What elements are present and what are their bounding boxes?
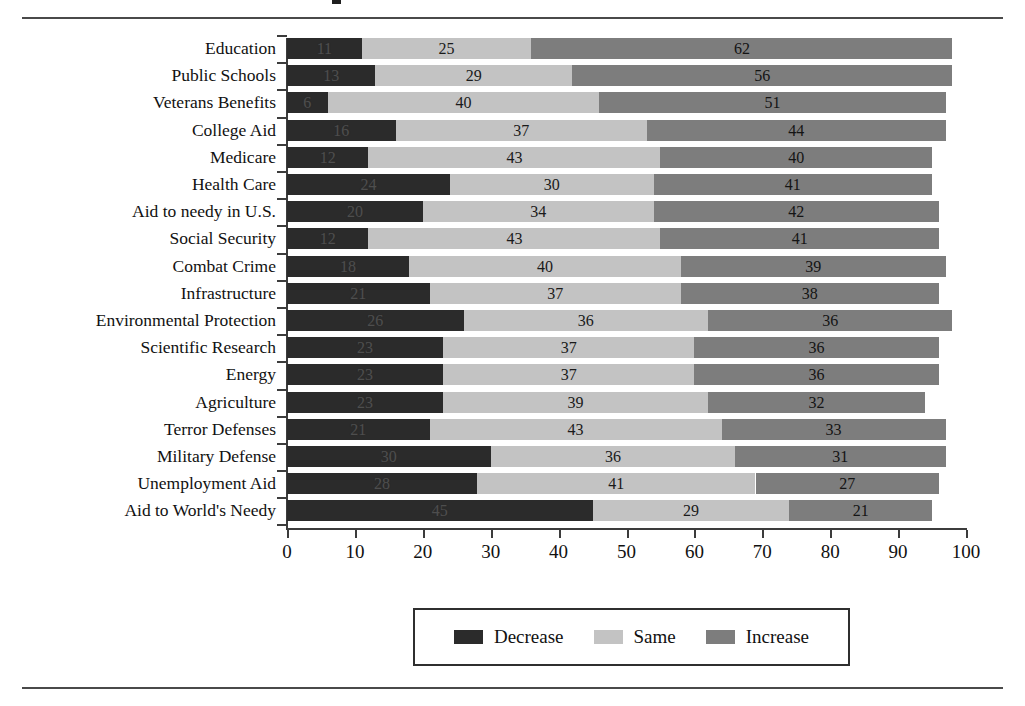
bar-segment-increase: 41 — [654, 174, 932, 195]
legend-item-increase[interactable]: Increase — [706, 626, 809, 648]
category-tick — [277, 171, 287, 173]
bar-value-label: 40 — [788, 149, 804, 166]
table-row: 213738 — [0, 283, 1025, 304]
bar-segment-same: 43 — [368, 147, 660, 168]
value-tick-label: 10 — [325, 541, 385, 563]
value-tick — [559, 530, 561, 538]
bar-value-label: 36 — [809, 339, 825, 356]
bar-segment-decrease: 45 — [287, 500, 593, 521]
bar-value-label: 23 — [357, 366, 373, 383]
category-label: Aid to needy in U.S. — [132, 201, 276, 222]
category-tick — [277, 225, 287, 227]
bar-segment-same: 36 — [491, 446, 735, 467]
value-tick — [762, 530, 764, 538]
legend-swatch-icon — [594, 630, 623, 644]
value-tick — [627, 530, 629, 538]
bar-value-label: 41 — [785, 176, 801, 193]
bar-segment-same: 29 — [375, 65, 572, 86]
value-tick — [423, 530, 425, 538]
bar-value-label: 33 — [826, 421, 842, 438]
table-row: 233932 — [0, 392, 1025, 413]
stacked-bar-chart: 1125621329566405116374412434024304120344… — [0, 0, 1025, 706]
bar-value-label: 37 — [513, 122, 529, 139]
legend-swatch-icon — [706, 630, 735, 644]
bar-segment-increase: 32 — [708, 392, 925, 413]
bar-value-label: 37 — [547, 285, 563, 302]
category-label: Terror Defenses — [164, 419, 276, 440]
bar-segment-same: 37 — [443, 364, 694, 385]
bar-value-label: 13 — [323, 67, 339, 84]
category-label: Education — [205, 38, 276, 59]
bar-value-label: 12 — [320, 149, 336, 166]
value-tick-label: 100 — [936, 541, 996, 563]
table-row: 163744 — [0, 120, 1025, 141]
bar-value-label: 29 — [683, 502, 699, 519]
value-tick — [491, 530, 493, 538]
legend-item-same[interactable]: Same — [594, 626, 676, 648]
legend-item-decrease[interactable]: Decrease — [454, 626, 564, 648]
bar-value-label: 31 — [832, 448, 848, 465]
bar-segment-increase: 36 — [694, 337, 938, 358]
bar-segment-same: 39 — [443, 392, 708, 413]
bar-value-label: 23 — [357, 394, 373, 411]
bar-segment-decrease: 28 — [287, 473, 477, 494]
value-tick — [694, 530, 696, 538]
value-tick-label: 60 — [664, 541, 724, 563]
category-label: Military Defense — [157, 446, 276, 467]
bar-segment-decrease: 30 — [287, 446, 491, 467]
bar-value-label: 6 — [303, 94, 311, 111]
truncated-title-glyph — [332, 0, 341, 4]
category-tick — [277, 35, 287, 37]
bar-segment-decrease: 12 — [287, 228, 368, 249]
bar-value-label: 41 — [608, 475, 624, 492]
category-tick — [277, 497, 287, 499]
bar-value-label: 18 — [340, 258, 356, 275]
bar-segment-increase: 21 — [789, 500, 932, 521]
legend-label: Increase — [746, 626, 809, 648]
category-label: Scientific Research — [140, 337, 276, 358]
category-label: Environmental Protection — [96, 310, 276, 331]
bar-segment-decrease: 23 — [287, 392, 443, 413]
value-tick-label: 30 — [461, 541, 521, 563]
bar-value-label: 21 — [350, 285, 366, 302]
bar-value-label: 16 — [333, 122, 349, 139]
table-row: 184039 — [0, 256, 1025, 277]
bar-segment-increase: 40 — [660, 147, 932, 168]
category-tick — [277, 198, 287, 200]
bar-value-label: 30 — [381, 448, 397, 465]
bar-value-label: 37 — [561, 366, 577, 383]
bar-value-label: 25 — [439, 40, 455, 57]
bar-value-label: 29 — [466, 67, 482, 84]
category-label: College Aid — [192, 120, 276, 141]
bar-segment-increase: 31 — [735, 446, 945, 467]
bar-segment-same: 34 — [423, 201, 654, 222]
bar-segment-increase: 51 — [599, 92, 945, 113]
bar-segment-decrease: 26 — [287, 310, 464, 331]
bar-value-label: 24 — [360, 176, 376, 193]
bar-value-label: 21 — [853, 502, 869, 519]
bar-value-label: 37 — [561, 339, 577, 356]
category-label: Energy — [226, 364, 276, 385]
category-label: Infrastructure — [181, 283, 276, 304]
bar-value-label: 40 — [537, 258, 553, 275]
category-tick — [277, 389, 287, 391]
category-label: Agriculture — [195, 392, 276, 413]
bar-segment-decrease: 24 — [287, 174, 450, 195]
category-label: Veterans Benefits — [153, 92, 276, 113]
bar-value-label: 44 — [788, 122, 804, 139]
value-tick — [898, 530, 900, 538]
bar-value-label: 36 — [809, 366, 825, 383]
table-row: 214333 — [0, 419, 1025, 440]
bar-value-label: 21 — [350, 421, 366, 438]
category-label: Social Security — [170, 228, 276, 249]
bar-segment-increase: 33 — [722, 419, 946, 440]
category-tick — [277, 117, 287, 119]
category-tick — [277, 416, 287, 418]
table-row: 303631 — [0, 446, 1025, 467]
bar-segment-decrease: 11 — [287, 38, 362, 59]
value-tick — [355, 530, 357, 538]
bar-value-label: 42 — [788, 203, 804, 220]
legend: DecreaseSameIncrease — [413, 608, 850, 666]
category-label: Aid to World's Needy — [124, 500, 276, 521]
bar-segment-increase: 39 — [681, 256, 946, 277]
